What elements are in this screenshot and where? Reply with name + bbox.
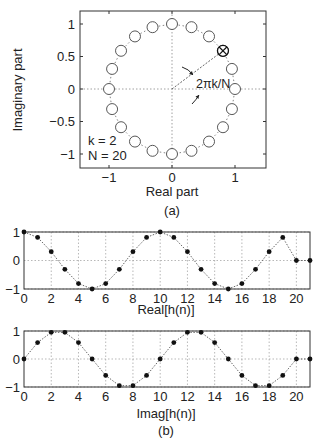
data-point [35,235,40,240]
data-point [131,249,136,254]
n-annotation: N = 20 [88,148,127,163]
caption-b: (b) [158,423,174,438]
root-marker [129,136,140,147]
data-point [267,249,272,254]
y-tick-label: −1 [60,147,75,162]
x-tick-label: 2 [48,291,55,306]
data-point [90,357,95,362]
data-point [158,230,163,235]
data-point [22,357,27,362]
data-point [240,281,245,286]
x-tick-label: 8 [129,389,136,404]
data-point [49,249,54,254]
data-point [253,267,258,272]
caption-a: (a) [164,203,180,218]
data-point [62,267,67,272]
root-marker [167,19,178,30]
x-axis-label-real: Real[h(n)] [137,302,194,317]
data-point [171,340,176,345]
k-annotation: k = 2 [88,133,117,148]
root-marker [230,84,241,95]
data-point [131,383,136,388]
data-point [76,281,81,286]
real-part-stem-plot: 02468101214161820−101 [5,225,312,307]
y-tick-label: −1 [5,380,20,395]
x-axis-label-imag: Imag[h(n)] [136,406,195,421]
x-tick-label: 16 [235,389,249,404]
root-marker [226,104,237,115]
x-tick-label: 1 [231,170,238,185]
x-tick-label: −1 [102,170,117,185]
data-point [308,258,313,263]
y-tick-label: 1 [13,225,20,240]
root-marker [107,104,118,115]
y-tick-label: −1 [5,282,20,297]
data-point [90,287,95,292]
root-marker [147,22,158,33]
x-tick-label: 0 [20,389,27,404]
x-tick-label: 8 [129,291,136,306]
data-point [35,340,40,345]
data-point [240,373,245,378]
y-tick-label: −0.5 [49,114,75,129]
data-point [117,383,122,388]
y-tick-label: 1 [13,324,20,339]
y-tick-label: 0 [68,82,75,97]
data-point [185,330,190,335]
data-point [158,357,163,362]
root-marker [107,63,118,74]
y-tick-label: 0 [13,253,20,268]
data-point [185,249,190,254]
angle-annotation: 2πk/N [196,77,230,91]
x-tick-label: 14 [207,291,221,306]
root-marker [186,22,197,33]
x-tick-label: 0 [168,170,175,185]
data-point [226,287,231,292]
y-tick-label: 0 [13,352,20,367]
x-tick-label: 20 [289,291,303,306]
x-tick-label: 18 [262,291,276,306]
root-marker [104,84,115,95]
root-marker [116,45,127,56]
data-point [226,357,231,362]
data-point [103,281,108,286]
y-tick-label: 0.5 [57,49,75,64]
data-point [267,383,272,388]
data-point [103,373,108,378]
root-marker [226,63,237,74]
x-tick-label: 18 [262,389,276,404]
data-point [212,281,217,286]
x-tick-label: 6 [102,291,109,306]
data-point [199,267,204,272]
data-point [280,373,285,378]
root-marker [116,122,127,133]
data-point [144,373,149,378]
root-marker [204,31,215,42]
x-tick-label: 4 [75,291,82,306]
root-marker [167,149,178,160]
x-tick-label: 14 [207,389,221,404]
y-axis-label-a: Imaginary part [10,48,25,131]
data-point [199,330,204,335]
data-point [212,340,217,345]
unit-circle-plot: −101−1−0.500.51 [49,11,266,185]
data-point [280,235,285,240]
data-point [294,258,299,263]
data-point [308,357,313,362]
root-marker [186,145,197,156]
root-marker [129,31,140,42]
data-point [117,267,122,272]
x-tick-label: 4 [75,389,82,404]
x-tick-label: 2 [48,389,55,404]
data-point [62,330,67,335]
root-marker [217,122,228,133]
x-tick-label: 16 [235,291,249,306]
x-tick-label: 0 [20,291,27,306]
x-tick-label: 10 [153,389,167,404]
x-tick-label: 6 [102,389,109,404]
figure: −101−1−0.500.51 Imaginary part Real part… [0,0,324,442]
data-point [22,230,27,235]
x-axis-label-a: Real part [146,184,199,199]
x-tick-label: 12 [180,389,194,404]
root-marker [204,136,215,147]
